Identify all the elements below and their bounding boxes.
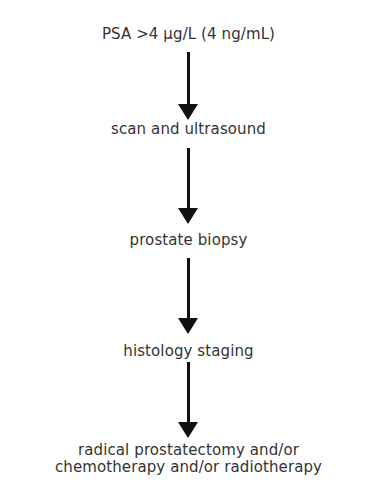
step-prostate-biopsy: prostate biopsy [0, 232, 377, 249]
step-treatment-line2: chemotherapy and/or radiotherapy [0, 459, 377, 476]
step-scan-ultrasound: scan and ultrasound [0, 121, 377, 138]
step-histology-staging: histology staging [0, 343, 377, 360]
step-psa-threshold: PSA >4 µg/L (4 ng/mL) [0, 26, 377, 43]
step-treatment-line1: radical prostatectomy and/or [0, 442, 377, 459]
